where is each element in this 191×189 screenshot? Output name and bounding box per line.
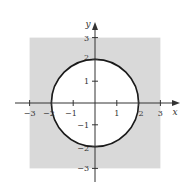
x-tick-label: 2 xyxy=(138,109,143,118)
x-tick-label: −1 xyxy=(65,109,77,118)
region-graph: −3 −2 −1 1 2 3 3 2 1 −1 −2 −3 x y xyxy=(0,0,191,189)
x-tick-label: 3 xyxy=(158,109,163,118)
y-tick-label: −3 xyxy=(77,164,89,173)
x-tick-label: −2 xyxy=(43,109,55,118)
x-axis-arrow-icon xyxy=(172,100,180,106)
y-tick-label: 2 xyxy=(84,53,89,62)
y-tick-label: −1 xyxy=(77,121,89,130)
y-axis-arrow-icon xyxy=(92,22,98,30)
x-tick-label: −3 xyxy=(24,109,36,118)
y-axis-label: y xyxy=(84,19,91,29)
y-tick-label: 1 xyxy=(84,77,89,86)
y-tick-label: −2 xyxy=(77,144,89,153)
x-tick-label: 1 xyxy=(114,109,119,118)
y-tick-label: 3 xyxy=(84,34,89,43)
x-axis-label: x xyxy=(172,107,177,117)
